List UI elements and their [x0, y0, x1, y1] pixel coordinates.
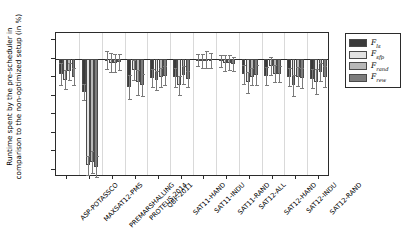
x-tick-mark	[203, 176, 204, 179]
legend-label: Fsfp	[371, 49, 384, 60]
x-tick-mark	[112, 176, 113, 179]
legend-item: Fls	[349, 38, 397, 49]
x-tick-mark	[249, 176, 250, 179]
x-tick-mark	[226, 176, 227, 179]
legend-label: Frand	[371, 61, 388, 72]
legend-swatch	[349, 74, 367, 82]
x-tick-mark	[318, 176, 319, 179]
legend-label: Fls	[371, 38, 381, 49]
x-tick-mark	[181, 176, 182, 179]
legend-label: Frew	[371, 72, 386, 83]
legend: FlsFsfpFrandFrew	[345, 33, 401, 88]
x-tick-mark	[89, 176, 90, 179]
legend-swatch	[349, 62, 367, 70]
bar-chart-figure: Runtime spent by the pre-scheduler in co…	[0, 0, 406, 244]
legend-item: Frand	[349, 61, 397, 72]
legend-swatch	[349, 39, 367, 47]
x-tick-mark	[135, 176, 136, 179]
x-tick-mark	[272, 176, 273, 179]
x-tick-mark	[66, 176, 67, 179]
x-tick-mark	[158, 176, 159, 179]
legend-item: Frew	[349, 72, 397, 83]
x-tick-mark	[295, 176, 296, 179]
legend-item: Fsfp	[349, 49, 397, 60]
legend-swatch	[349, 51, 367, 59]
